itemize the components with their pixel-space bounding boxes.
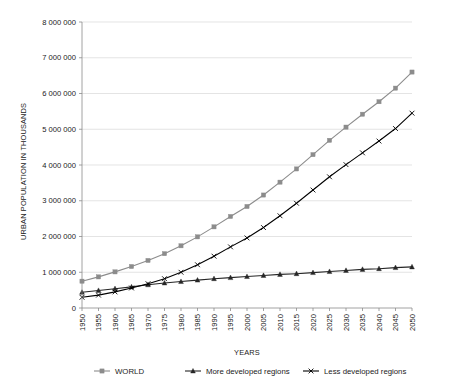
chart-legend: WORLDMore developed regionsLess develope… [94,367,406,376]
data-point-marker [327,138,331,142]
data-point-marker [113,270,117,274]
x-axis-tick-label: 2000 [243,314,252,331]
data-point-marker [179,244,183,248]
x-axis-tick-label: 2035 [358,314,367,331]
data-point-marker [294,167,298,171]
urban-population-line-chart: 01 000 0002 000 0003 000 0004 000 0005 0… [0,0,456,392]
x-axis-tick-label: 2020 [309,314,318,331]
data-point-marker [261,193,265,197]
y-axis-tick-label: 1 000 000 [42,268,76,277]
legend-marker-icon [100,369,104,373]
data-point-marker [360,112,364,116]
chart-container: 01 000 0002 000 0003 000 0004 000 0005 0… [0,0,456,392]
y-axis-tick-label: 6 000 000 [42,89,76,98]
data-point-marker [311,153,315,157]
x-axis-tick-label: 2030 [342,314,351,331]
x-axis-tick-label: 1970 [144,314,153,331]
data-point-marker [96,275,100,279]
y-axis-tick-label: 3 000 000 [42,196,76,205]
data-point-marker [393,86,397,90]
data-point-marker [146,258,150,262]
x-axis-tick-label: 2025 [325,314,334,331]
x-axis-tick-label: 1985 [193,314,202,331]
x-axis-tick-label: 1950 [78,314,87,331]
x-axis-tick-labels: 1950195519601965197019751980198519901995… [78,314,417,331]
x-axis-tick-label: 2050 [408,314,417,331]
y-axis-tick-label: 7 000 000 [42,53,76,62]
data-point-marker [278,180,282,184]
legend-label: Less developed regions [324,367,406,376]
x-axis-tick-label: 2040 [375,314,384,331]
x-axis-tick-label: 1975 [160,314,169,331]
y-axis-tick-label: 0 [72,304,76,313]
x-axis-tick-label: 1965 [127,314,136,331]
data-point-marker [228,214,232,218]
data-point-marker [162,252,166,256]
y-axis-title: URBAN POPULATION IN THOUSANDS [19,103,28,240]
data-point-marker [195,235,199,239]
x-axis-tick-label: 2005 [259,314,268,331]
x-axis-tick-label: 1980 [177,314,186,331]
y-axis-tick-label: 5 000 000 [42,125,76,134]
x-axis-tick-label: 1955 [94,314,103,331]
data-point-marker [377,100,381,104]
legend-label: WORLD [115,367,144,376]
x-axis-tickmarks [82,308,412,311]
y-axis-tick-label: 8 000 000 [42,18,76,27]
legend-label: More developed regions [206,367,290,376]
data-point-marker [212,225,216,229]
data-point-marker [344,125,348,129]
x-axis-tick-label: 1960 [111,314,120,331]
y-axis-tick-label: 4 000 000 [42,161,76,170]
x-axis-tick-label: 2045 [391,314,400,331]
x-axis-title: YEARS [234,348,260,357]
x-axis-tick-label: 2015 [292,314,301,331]
x-axis-tick-label: 1995 [226,314,235,331]
data-point-marker [129,264,133,268]
data-point-marker [245,204,249,208]
data-point-marker [410,70,414,74]
y-axis-tick-label: 2 000 000 [42,232,76,241]
x-axis-tick-label: 2010 [276,314,285,331]
y-axis-tick-labels: 01 000 0002 000 0003 000 0004 000 0005 0… [42,18,76,313]
x-axis-tick-label: 1990 [210,314,219,331]
